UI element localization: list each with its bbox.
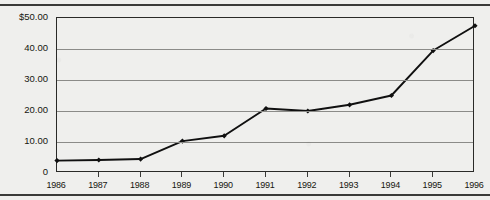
x-tick-1993 [349, 172, 350, 177]
x-axis-labels: 1986198719881989199019911992199319941995… [0, 0, 490, 200]
chart-page: 010.0020.0030.0040.00$50.00 198619871988… [0, 0, 490, 200]
x-tick-label-1986: 1986 [46, 180, 65, 190]
x-tick-label-1993: 1993 [339, 180, 358, 190]
x-tick-1995 [432, 172, 433, 177]
x-tick-label-1991: 1991 [255, 180, 274, 190]
x-tick-1992 [307, 172, 308, 177]
x-tick-label-1987: 1987 [88, 180, 107, 190]
x-tick-1994 [390, 172, 391, 177]
x-tick-1989 [181, 172, 182, 177]
x-tick-label-1988: 1988 [130, 180, 149, 190]
x-tick-label-1995: 1995 [423, 180, 442, 190]
x-tick-label-1990: 1990 [214, 180, 233, 190]
x-tick-label-1992: 1992 [297, 180, 316, 190]
x-tick-label-1994: 1994 [381, 180, 400, 190]
x-tick-label-1996: 1996 [464, 180, 483, 190]
x-tick-1990 [223, 172, 224, 177]
x-tick-label-1989: 1989 [172, 180, 191, 190]
x-tick-1987 [98, 172, 99, 177]
x-tick-1988 [140, 172, 141, 177]
x-tick-1991 [265, 172, 266, 177]
